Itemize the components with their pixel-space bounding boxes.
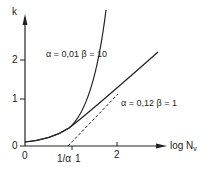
curve-alpha-0.12 <box>25 52 158 142</box>
x-tick-1: 1 <box>75 154 81 164</box>
x-axis-label: log Nv <box>170 141 197 154</box>
curve-label-steep: α = 0,01 β = 10 <box>46 49 107 59</box>
curve-label-shallow: α = 0,12 β = 1 <box>121 98 177 108</box>
asymptote-dashed <box>68 94 118 146</box>
y-tick-2: 2 <box>12 55 18 65</box>
x-tick-2: 2 <box>114 150 120 160</box>
x-tick-inv-alpha: 1/α <box>57 154 71 164</box>
curve-alpha-0.01 <box>25 10 106 142</box>
y-tick-0: 0 <box>12 141 18 151</box>
y-axis-arrow-icon <box>23 14 28 25</box>
x-tick-0: 0 <box>22 151 28 161</box>
y-axis-label: k <box>12 7 17 17</box>
y-tick-1: 1 <box>12 94 18 104</box>
x-axis-arrow-icon <box>156 144 167 149</box>
